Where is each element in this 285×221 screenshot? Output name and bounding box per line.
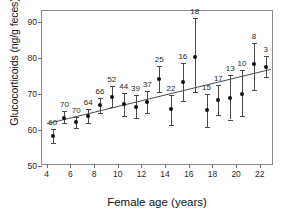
- data-point: [74, 120, 78, 124]
- error-bar: [254, 43, 255, 90]
- sample-size-label: 8: [252, 32, 256, 41]
- sample-size-label: 13: [226, 64, 235, 73]
- error-bar-cap: [74, 128, 79, 129]
- y-tick: [38, 94, 42, 95]
- x-tick: [47, 164, 48, 168]
- error-bar-cap: [74, 117, 79, 118]
- y-tick-label-50: 50: [28, 161, 37, 171]
- figure: Glucocorticoids (ng/g feces) 60707064665…: [0, 0, 285, 221]
- sample-size-label: 15: [202, 83, 211, 92]
- x-tick: [141, 164, 142, 168]
- data-point: [181, 80, 185, 84]
- sample-size-label: 10: [238, 59, 247, 68]
- data-point: [169, 107, 173, 111]
- x-axis-title: Female age (years): [41, 196, 273, 208]
- y-tick: [38, 58, 42, 59]
- sample-size-label: 37: [143, 80, 152, 89]
- x-tick: [189, 164, 190, 168]
- x-tick-label-16: 16: [184, 169, 193, 179]
- y-tick: [38, 130, 42, 131]
- data-point: [122, 102, 126, 106]
- sample-size-label: 52: [107, 75, 116, 84]
- y-tick: [38, 22, 42, 23]
- y-tick-label-80: 80: [28, 53, 37, 63]
- x-tick-label-8: 8: [92, 169, 97, 179]
- error-bar-cap: [193, 18, 198, 19]
- error-bar-cap: [169, 125, 174, 126]
- error-bar-cap: [216, 85, 221, 86]
- sample-size-label: 18: [190, 7, 199, 16]
- y-tick-label-60: 60: [28, 125, 37, 135]
- error-bar-cap: [181, 101, 186, 102]
- sample-size-label: 70: [60, 100, 69, 109]
- error-bar-cap: [228, 75, 233, 76]
- sample-size-label: 70: [72, 106, 81, 115]
- data-point: [110, 95, 114, 99]
- error-bar-cap: [157, 66, 162, 67]
- sample-size-label: 60: [48, 118, 57, 127]
- data-point: [134, 105, 138, 109]
- y-tick: [38, 166, 42, 167]
- sample-size-label: 39: [131, 84, 140, 93]
- sample-size-label: 3: [263, 45, 267, 54]
- error-bar-cap: [264, 56, 269, 57]
- x-tick: [236, 164, 237, 168]
- error-bar-cap: [205, 127, 210, 128]
- x-tick: [94, 164, 95, 168]
- error-bar-cap: [205, 94, 210, 95]
- data-point: [252, 62, 256, 66]
- data-point: [145, 100, 149, 104]
- x-tick: [260, 164, 261, 168]
- x-tick: [70, 164, 71, 168]
- sample-size-label: 64: [84, 98, 93, 107]
- x-tick-label-18: 18: [208, 169, 217, 179]
- error-bar-cap: [110, 107, 115, 108]
- plot-area: 607070646652443937252216181517131083 506…: [41, 10, 273, 165]
- error-bar-cap: [51, 129, 56, 130]
- error-bar-cap: [193, 92, 198, 93]
- sample-size-label: 17: [214, 74, 223, 83]
- x-tick-label-6: 6: [68, 169, 73, 179]
- error-bar-cap: [62, 123, 67, 124]
- x-tick: [212, 164, 213, 168]
- error-bar-cap: [264, 77, 269, 78]
- data-point: [205, 108, 209, 112]
- regression-line: [42, 11, 272, 164]
- error-bar-cap: [240, 70, 245, 71]
- error-bar-cap: [216, 115, 221, 116]
- data-point: [193, 55, 197, 59]
- sample-size-label: 16: [178, 52, 187, 61]
- error-bar-cap: [122, 116, 127, 117]
- x-tick-label-10: 10: [113, 169, 122, 179]
- y-axis-title: Glucocorticoids (ng/g feces): [8, 0, 20, 142]
- error-bar-cap: [98, 113, 103, 114]
- data-point: [240, 92, 244, 96]
- error-bar-cap: [51, 143, 56, 144]
- x-tick-label-4: 4: [44, 169, 49, 179]
- y-tick-label-90: 90: [28, 17, 37, 27]
- y-tick-label-70: 70: [28, 89, 37, 99]
- x-tick: [118, 164, 119, 168]
- sample-size-label: 22: [167, 84, 176, 93]
- data-point: [62, 116, 66, 120]
- data-point: [86, 114, 90, 118]
- data-point: [264, 65, 268, 69]
- data-point: [98, 103, 102, 107]
- error-bar-cap: [86, 109, 91, 110]
- error-bar-cap: [145, 91, 150, 92]
- data-point: [216, 98, 220, 102]
- error-bar-cap: [240, 116, 245, 117]
- error-bar-cap: [110, 86, 115, 87]
- x-tick-label-12: 12: [137, 169, 146, 179]
- error-bar-cap: [228, 120, 233, 121]
- sample-size-label: 25: [155, 55, 164, 64]
- error-bar-cap: [181, 63, 186, 64]
- data-point: [51, 134, 55, 138]
- error-bar-cap: [122, 93, 127, 94]
- sample-size-label: 66: [96, 87, 105, 96]
- error-bar-cap: [134, 95, 139, 96]
- data-point: [157, 77, 161, 81]
- error-bar-cap: [169, 95, 174, 96]
- x-tick-label-14: 14: [160, 169, 169, 179]
- error-bar-cap: [98, 98, 103, 99]
